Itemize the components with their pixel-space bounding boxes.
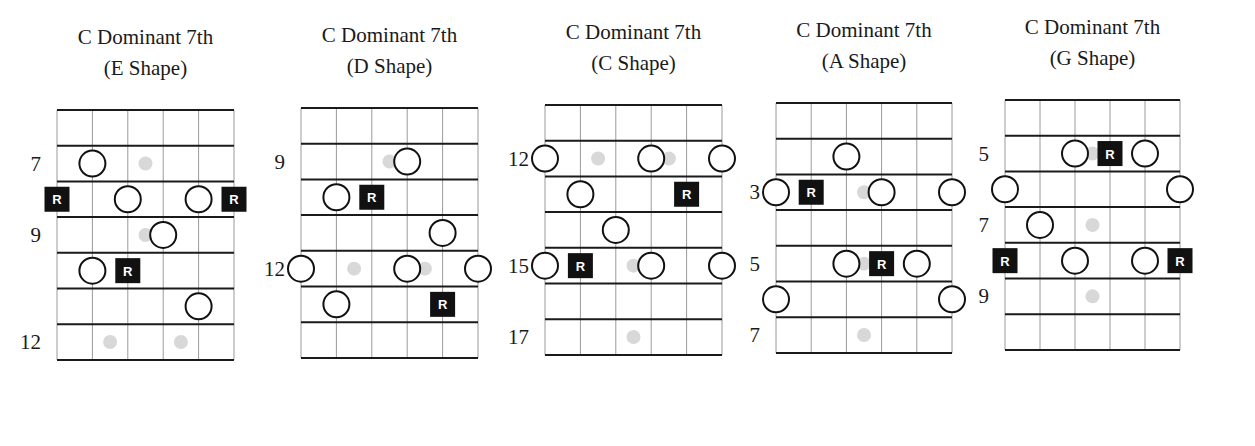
root-note-marker: R [993, 248, 1018, 273]
root-note-marker: R [1168, 248, 1193, 273]
root-note-marker: R [1098, 141, 1123, 166]
chord-tone-circle [1062, 141, 1088, 167]
chord-tone-circle [1062, 248, 1088, 274]
chord-tone-circle [1167, 176, 1193, 202]
svg-text:R: R [1000, 254, 1010, 269]
fret-number-label: 7 [979, 213, 990, 237]
svg-text:R: R [1175, 254, 1185, 269]
chord-tone-circle [1027, 212, 1053, 238]
svg-text:R: R [1105, 147, 1115, 162]
inlay-marker-dot [1086, 218, 1100, 232]
chord-tone-circle [1132, 141, 1158, 167]
fret-number-label: 5 [979, 142, 990, 166]
chord-tone-circle [1132, 248, 1158, 274]
chord-tone-circle [992, 176, 1018, 202]
inlay-marker-dot [1086, 289, 1100, 303]
fretboard: 579RRR [0, 0, 1255, 446]
fret-number-label: 9 [979, 284, 990, 308]
